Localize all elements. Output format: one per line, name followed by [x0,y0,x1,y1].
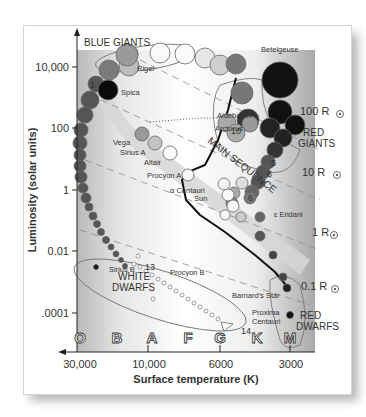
label-10r: 10 R [302,166,325,178]
label-white-dwarfs-2: DWARFS [112,282,155,293]
star-sirius-b: Sirius B [109,265,135,274]
star-procyon-a: Procyon A [147,171,181,180]
y-axis-label: Luminosity (solar units) [26,127,38,252]
num-13: 13 [145,262,155,272]
num-5: 5 [271,158,276,168]
x-tick-3000: 3000 [279,358,303,370]
num-1: 1 [90,80,95,90]
star-spica: Spica [121,88,141,97]
label-1r: 1 R [312,226,329,238]
y-tick-100: 100 [51,122,69,134]
star-procyon-b: Procyon B [170,268,205,277]
x-axis-arrow [58,349,66,355]
y-tick-00001: .0001 [41,307,69,319]
y-tick-001: 0.01 [48,245,69,257]
star-proxima-1: Proxima [252,308,280,317]
label-red-dwarfs-2: DWARFS [296,321,339,332]
x-tick-10000: 10,000 [132,358,166,370]
num-8: 8 [267,169,272,179]
star-rigel: Rigel [137,64,154,73]
y-axis-arrow [74,28,80,36]
star-barnards: Barnard's Star [232,291,280,300]
class-f: F [183,329,192,346]
class-b: B [112,329,123,346]
y-tick-10000: 10,000 [35,61,69,73]
label-01r: 0.1 R [301,280,327,292]
label-red-dwarfs-1: RED [300,310,321,321]
label-blue-giants: BLUE GIANTS [84,37,150,48]
class-m: M [284,329,297,346]
class-g: G [214,329,226,346]
y-tick-1: 1 [63,184,69,196]
hr-diagram: 10,000 100 1 0.01 .0001 Luminosity (sola… [0,0,366,417]
num-14: 14 [241,326,251,336]
x-axis-label: Surface temperature (K) [133,373,259,385]
class-k: K [252,329,263,346]
star-proxima-2: Centauri [252,317,281,326]
x-tick-6000: 6000 [209,358,233,370]
star-aldebaran: Aldebaran [217,111,251,120]
label-100r: 100 R [300,105,329,117]
class-a: A [147,329,158,346]
star-altair: Altair [144,158,162,167]
star-eps-eridani: ε Eridani [274,210,303,219]
star-betelgeuse: Betelgeuse [261,45,299,54]
num-6: 6 [248,193,253,203]
x-tick-30000: 30,000 [63,358,97,370]
label-red-giants-2: GIANTS [298,138,336,149]
label-red-giants-1: RED [303,127,324,138]
class-o: O [74,329,86,346]
num-10: 10 [231,126,241,136]
star-vega: Vega [113,138,131,147]
star-sun: Sun [194,194,207,203]
star-sirius-a: Sirius A [120,148,145,157]
